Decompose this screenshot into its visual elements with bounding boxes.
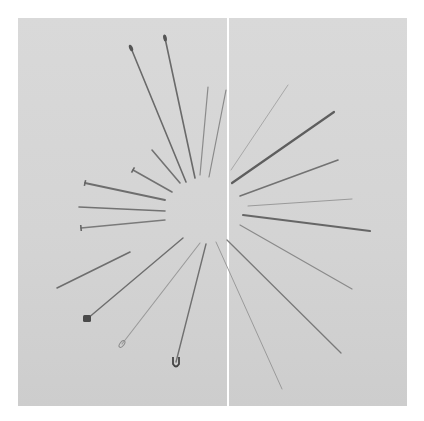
- needle: [240, 160, 338, 196]
- needle: [132, 167, 172, 192]
- needle-head: [84, 180, 85, 186]
- needle: [248, 199, 352, 206]
- needle: [216, 242, 282, 389]
- needle: [84, 180, 165, 200]
- needle: [152, 150, 180, 183]
- needle: [200, 87, 208, 175]
- needle: [231, 85, 288, 170]
- needle: [173, 244, 206, 367]
- needle: [128, 44, 186, 182]
- needle: [79, 207, 165, 211]
- needle-head: [81, 225, 82, 231]
- needle: [209, 90, 226, 177]
- needle: [83, 238, 183, 322]
- needle-starburst: [0, 0, 424, 421]
- needle: [232, 112, 334, 183]
- needle: [227, 240, 341, 353]
- needle-head: [163, 34, 168, 42]
- needle: [81, 220, 165, 231]
- needle: [57, 252, 130, 288]
- needle-head: [128, 44, 134, 52]
- needle-head: [83, 315, 91, 322]
- needle: [243, 215, 370, 231]
- needle: [240, 225, 352, 289]
- needle: [163, 34, 195, 178]
